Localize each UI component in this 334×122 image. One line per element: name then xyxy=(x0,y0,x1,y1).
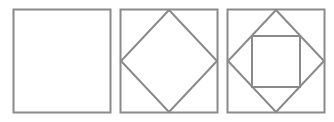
outer-square xyxy=(228,10,325,113)
panel-2-square-with-diamond xyxy=(121,10,218,113)
inner-square xyxy=(252,36,300,87)
outer-square xyxy=(121,10,218,113)
nested-squares-diagram xyxy=(0,0,334,122)
diamond xyxy=(228,10,324,112)
diamond xyxy=(121,10,217,112)
outer-square xyxy=(14,10,111,113)
panel-3-square-diamond-inner-square xyxy=(228,10,325,113)
panel-1-square xyxy=(14,10,111,113)
